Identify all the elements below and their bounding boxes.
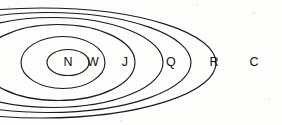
set-label-q: Q: [166, 55, 176, 69]
set-label-c: C: [249, 55, 258, 69]
set-ring-q: [0, 18, 163, 108]
set-label-j: J: [122, 55, 128, 69]
ellipse-canvas: N W J Q R C: [0, 0, 282, 125]
nested-ellipse-diagram: N W J Q R C: [0, 0, 282, 125]
set-label-r: R: [209, 55, 218, 69]
set-label-w: W: [87, 55, 99, 69]
set-label-n: N: [63, 55, 72, 69]
